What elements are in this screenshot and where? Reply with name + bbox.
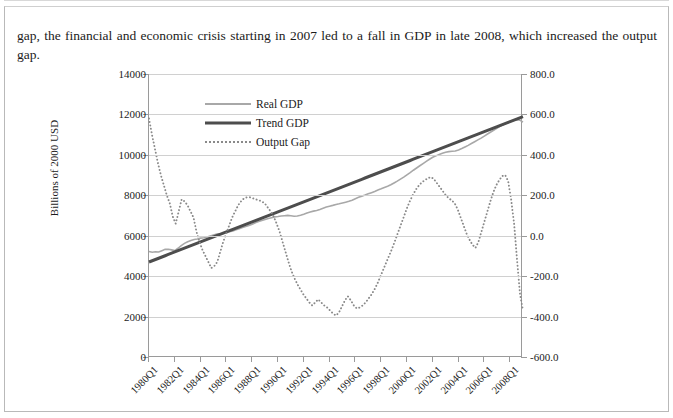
x-tick-label: 2006Q1 — [464, 364, 495, 396]
y-left-tick-label: 10000 — [119, 149, 147, 161]
y-left-tick-label: 2000 — [124, 311, 146, 323]
x-tickmark — [380, 357, 381, 362]
x-tick-label: 1984Q1 — [180, 364, 211, 396]
x-tickmark — [406, 357, 407, 362]
legend-item: Trend GDP — [205, 113, 345, 132]
x-tickmark — [148, 357, 149, 362]
gridline — [149, 317, 521, 318]
y-left-tick-label: 14000 — [119, 68, 147, 80]
y-right-tick-label: 600.0 — [530, 108, 555, 120]
x-tick-label: 2000Q1 — [386, 364, 417, 396]
gridline — [149, 155, 521, 156]
gridline — [149, 74, 521, 75]
gdp-output-gap-chart: Billions of 2000 USD 0200040006000800010… — [0, 58, 673, 418]
legend-item: Real GDP — [205, 94, 345, 113]
x-tickmark — [251, 357, 252, 362]
x-tick-label: 1992Q1 — [283, 364, 314, 396]
x-tick-label: 1980Q1 — [128, 364, 159, 396]
x-tick-label: 1986Q1 — [206, 364, 237, 396]
legend-line-icon — [205, 117, 251, 129]
x-tickmark — [354, 357, 355, 362]
y-left-tick-label: 8000 — [124, 189, 146, 201]
legend-line-icon — [205, 98, 251, 110]
x-tickmark — [225, 357, 226, 362]
y-left-tick-label: 0 — [141, 351, 147, 363]
x-tick-label: 1982Q1 — [154, 364, 185, 396]
x-tickmark — [174, 357, 175, 362]
x-tickmark — [432, 357, 433, 362]
page-top-rule — [4, 0, 669, 1]
y-left-tick-label: 6000 — [124, 230, 146, 242]
gridline — [149, 195, 521, 196]
y-left-tick-label: 12000 — [119, 108, 147, 120]
legend-item: Output Gap — [205, 132, 345, 151]
x-tick-label: 1998Q1 — [361, 364, 392, 396]
gridline — [149, 236, 521, 237]
x-tickmark — [458, 357, 459, 362]
legend-label: Trend GDP — [256, 117, 309, 129]
x-tick-label: 1994Q1 — [309, 364, 340, 396]
y-right-tick-label: 800.0 — [530, 68, 555, 80]
x-tickmark — [483, 357, 484, 362]
y-right-tick-label: -200.0 — [530, 270, 558, 282]
gridline — [149, 276, 521, 277]
y-right-tick-label: 400.0 — [530, 149, 555, 161]
x-tickmark — [277, 357, 278, 362]
y-right-tick-label: 200.0 — [530, 189, 555, 201]
x-tick-label: 2008Q1 — [490, 364, 521, 396]
legend-label: Real GDP — [256, 98, 303, 110]
y-right-tickmark — [521, 357, 527, 358]
x-tick-label: 1988Q1 — [232, 364, 263, 396]
x-tick-label: 1990Q1 — [257, 364, 288, 396]
x-tick-label: 2004Q1 — [438, 364, 469, 396]
x-tick-label: 1996Q1 — [335, 364, 366, 396]
x-tickmark — [329, 357, 330, 362]
document-page: gap, the financial and economic crisis s… — [0, 0, 673, 418]
x-tick-label: 2002Q1 — [412, 364, 443, 396]
x-tickmark — [509, 357, 510, 362]
chart-legend: Real GDPTrend GDPOutput Gap — [205, 94, 345, 151]
legend-label: Output Gap — [256, 136, 310, 148]
y-right-tick-label: -600.0 — [530, 351, 558, 363]
x-tickmark — [200, 357, 201, 362]
y-left-tick-label: 4000 — [124, 270, 146, 282]
y-axis-title: Billions of 2000 USD — [48, 108, 60, 228]
legend-line-icon — [205, 136, 251, 148]
x-tickmark — [303, 357, 304, 362]
y-right-tick-label: -400.0 — [530, 311, 558, 323]
y-right-tick-label: 0.0 — [530, 230, 544, 242]
